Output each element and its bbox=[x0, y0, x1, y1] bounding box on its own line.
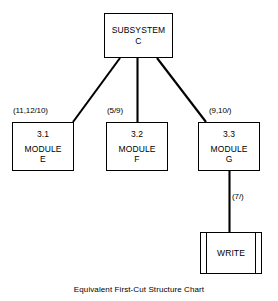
edge-label-module-g: (9,10/) bbox=[209, 106, 231, 115]
edge-subsystem-to-module-g bbox=[157, 58, 206, 122]
node-write[interactable]: WRITE bbox=[200, 232, 262, 274]
node-module-f[interactable]: 3.2 MODULE F bbox=[106, 122, 168, 171]
node-module-e-id: 3.1 bbox=[37, 129, 49, 139]
node-module-g[interactable]: 3.3 MODULE G bbox=[198, 122, 260, 171]
edge-label-module-e: (11,12/10) bbox=[13, 106, 48, 115]
node-module-f-id: 3.2 bbox=[131, 129, 143, 139]
structure-chart-diagram: SUBSYSTEM C 3.1 MODULE E 3.2 MODULE F 3.… bbox=[0, 0, 278, 301]
node-subsystem-c[interactable]: SUBSYSTEM C bbox=[104, 13, 173, 58]
node-module-g-label: MODULE G bbox=[211, 144, 248, 164]
node-subsystem-c-label: SUBSYSTEM C bbox=[112, 25, 165, 45]
node-module-g-id: 3.3 bbox=[223, 129, 235, 139]
predefined-process-left-bar-icon bbox=[206, 233, 207, 273]
figure-caption: Equivalent First-Cut Structure Chart bbox=[0, 285, 278, 294]
node-module-f-label: MODULE F bbox=[119, 144, 156, 164]
node-module-e-label: MODULE E bbox=[25, 144, 62, 164]
node-module-e[interactable]: 3.1 MODULE E bbox=[12, 122, 74, 171]
predefined-process-right-bar-icon bbox=[255, 233, 256, 273]
edge-label-write: (7/) bbox=[232, 192, 244, 201]
edge-label-module-f: (5/9) bbox=[107, 106, 123, 115]
node-write-label: WRITE bbox=[217, 248, 245, 258]
